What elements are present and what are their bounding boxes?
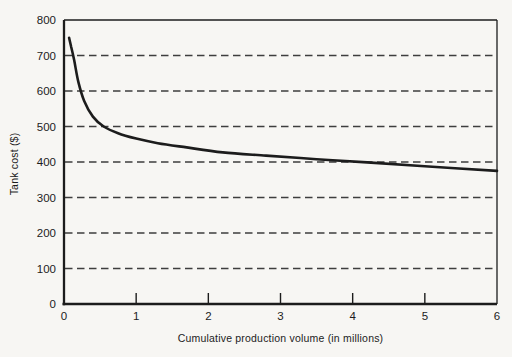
y-tick-label-500: 500 <box>37 121 56 133</box>
y-tick-label-200: 200 <box>37 227 56 239</box>
y-tick-label-100: 100 <box>37 263 56 275</box>
y-tick-label-300: 300 <box>37 192 56 204</box>
x-tick-label-2: 2 <box>205 310 211 322</box>
chart-canvas: 01002003004005006007008000123456 <box>0 0 512 357</box>
tank-cost-learning-curve <box>69 38 497 171</box>
y-tick-label-400: 400 <box>37 156 56 168</box>
x-axis-title: Cumulative production volume (in million… <box>64 332 497 344</box>
x-tick-label-0: 0 <box>61 310 67 322</box>
tank-cost-learning-curve-chart: 01002003004005006007008000123456 Tank co… <box>0 0 512 357</box>
x-tick-label-3: 3 <box>277 310 283 322</box>
y-tick-label-0: 0 <box>50 298 56 310</box>
y-tick-label-600: 600 <box>37 85 56 97</box>
x-tick-label-6: 6 <box>494 310 500 322</box>
y-tick-label-700: 700 <box>37 50 56 62</box>
y-axis-title: Tank cost ($) <box>8 133 20 196</box>
x-tick-label-5: 5 <box>422 310 428 322</box>
y-tick-label-800: 800 <box>37 14 56 26</box>
x-tick-label-1: 1 <box>133 310 139 322</box>
x-tick-label-4: 4 <box>349 310 356 322</box>
